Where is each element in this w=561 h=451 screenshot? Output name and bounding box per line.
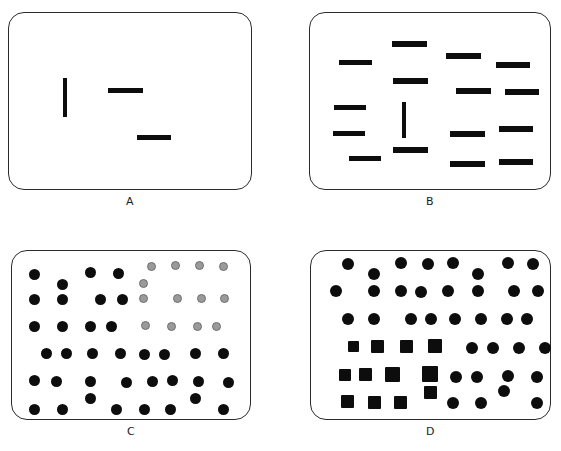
panel-d-distractor-circle	[447, 257, 459, 269]
panel-d-distractor-circle	[368, 313, 380, 325]
panel-b-distractor-horizontal-bar	[334, 105, 366, 110]
panel-d-distractor-circle	[422, 258, 434, 270]
panel-c-distractor-circle	[190, 348, 201, 359]
panel-d-distractor-circle	[527, 258, 539, 270]
panel-c-distractor-circle	[159, 349, 170, 360]
panel-d-distractor-circle	[466, 342, 478, 354]
panel-b-distractor-horizontal-bar	[450, 161, 485, 167]
panel-d-oddball-square	[339, 369, 351, 381]
panel-c-distractor-circle	[85, 321, 96, 332]
panel-c-distractor-circle	[190, 393, 201, 404]
panel-d-distractor-circle	[368, 285, 380, 297]
panel-c-distractor-circle	[113, 268, 124, 279]
panel-a-distractor-horizontal-bar	[108, 88, 143, 93]
panel-a-target-vertical-bar	[63, 78, 67, 117]
panel-a	[8, 12, 252, 190]
panel-c-distractor-circle	[57, 321, 68, 332]
panel-c-distractor-circle	[139, 404, 150, 415]
panel-d-distractor-circle	[531, 371, 543, 383]
panel-d-distractor-circle	[447, 397, 459, 409]
panel-c-oddball-circle	[139, 279, 148, 288]
panel-b-distractor-horizontal-bar	[446, 53, 481, 59]
panel-d-oddball-square	[359, 368, 372, 381]
panel-c-distractor-circle	[29, 269, 40, 280]
panel-c-oddball-circle	[220, 294, 229, 303]
panel-c-distractor-circle	[87, 348, 98, 359]
panel-c-distractor-circle	[57, 404, 68, 415]
panel-d-distractor-circle	[405, 313, 417, 325]
panel-c-distractor-circle	[111, 404, 122, 415]
panel-d-distractor-circle	[442, 285, 454, 297]
panel-c-distractor-circle	[51, 376, 62, 387]
visual-search-figure: ABCD	[0, 0, 561, 451]
panel-b-distractor-horizontal-bar	[339, 60, 372, 65]
panel-d-distractor-circle	[395, 285, 407, 297]
panel-c	[11, 250, 251, 420]
panel-c-distractor-circle	[85, 267, 96, 278]
panel-c-oddball-circle	[139, 294, 148, 303]
panel-d-distractor-circle	[513, 342, 525, 354]
panel-c-distractor-circle	[29, 404, 40, 415]
panel-label-c: C	[11, 425, 251, 439]
panel-d-distractor-circle	[475, 397, 487, 409]
panel-c-distractor-circle	[218, 348, 229, 359]
panel-c-distractor-circle	[218, 404, 229, 415]
panel-c-distractor-circle	[85, 393, 96, 404]
panel-d-distractor-circle	[368, 268, 380, 280]
panel-d-oddball-square	[422, 366, 438, 382]
panel-b-distractor-horizontal-bar	[499, 159, 533, 165]
panel-c-distractor-circle	[139, 349, 150, 360]
panel-b-distractor-horizontal-bar	[333, 131, 365, 136]
panel-c-distractor-circle	[29, 294, 40, 305]
panel-d-distractor-circle	[521, 313, 533, 325]
panel-c-oddball-circle	[167, 322, 176, 331]
panel-c-distractor-circle	[223, 377, 234, 388]
panel-c-distractor-circle	[61, 348, 72, 359]
panel-c-oddball-circle	[195, 261, 204, 270]
panel-b-distractor-horizontal-bar	[499, 126, 533, 132]
panel-d-distractor-circle	[472, 268, 484, 280]
panel-a-distractor-horizontal-bar	[137, 135, 171, 140]
panel-c-oddball-circle	[219, 262, 228, 271]
panel-d-distractor-circle	[532, 285, 544, 297]
panel-d-distractor-circle	[395, 257, 407, 269]
panel-d-distractor-circle	[475, 313, 487, 325]
panel-c-distractor-circle	[115, 348, 126, 359]
panel-d-distractor-circle	[342, 313, 354, 325]
panel-label-d: D	[310, 425, 551, 439]
panel-c-distractor-circle	[85, 376, 96, 387]
panel-c-distractor-circle	[106, 321, 117, 332]
panel-d-oddball-square	[385, 367, 400, 382]
panel-b-distractor-horizontal-bar	[456, 88, 491, 94]
panel-d-distractor-circle	[330, 285, 342, 297]
panel-d-oddball-square	[341, 395, 354, 408]
panel-c-distractor-circle	[165, 404, 176, 415]
panel-d-distractor-circle	[487, 342, 499, 354]
panel-c-distractor-circle	[57, 279, 68, 290]
panel-d-oddball-square	[428, 339, 442, 353]
panel-d-distractor-circle	[449, 313, 461, 325]
panel-d-distractor-circle	[501, 313, 513, 325]
panel-label-b: B	[309, 195, 551, 209]
panel-c-distractor-circle	[117, 294, 128, 305]
panel-c-distractor-circle	[121, 377, 132, 388]
panel-d-distractor-circle	[539, 342, 551, 354]
panel-d-oddball-square	[371, 340, 384, 353]
panel-d-distractor-circle	[471, 371, 483, 383]
panel-d-distractor-circle	[472, 285, 484, 297]
panel-d-oddball-square	[394, 396, 407, 409]
panel-b-distractor-horizontal-bar	[349, 156, 381, 161]
panel-c-distractor-circle	[167, 375, 178, 386]
panel-d-oddball-square	[368, 396, 381, 409]
panel-c-oddball-circle	[173, 294, 182, 303]
panel-c-distractor-circle	[147, 376, 158, 387]
panel-b-distractor-horizontal-bar	[393, 147, 428, 153]
panel-d-distractor-circle	[342, 258, 354, 270]
panel-b-distractor-horizontal-bar	[505, 89, 539, 95]
panel-d-distractor-circle	[425, 313, 437, 325]
panel-c-oddball-circle	[193, 322, 202, 331]
panel-c-distractor-circle	[193, 376, 204, 387]
panel-d-distractor-circle	[502, 370, 514, 382]
panel-c-distractor-circle	[95, 294, 106, 305]
panel-c-oddball-circle	[171, 261, 180, 270]
